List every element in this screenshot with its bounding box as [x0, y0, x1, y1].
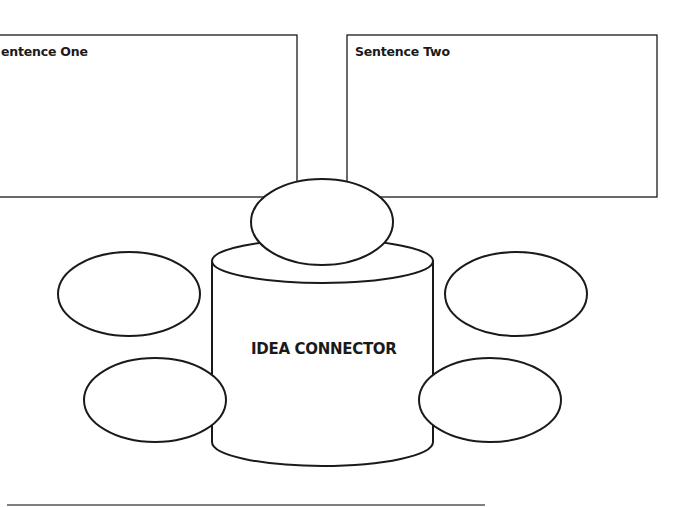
bubble-left-top[interactable] [58, 252, 200, 336]
idea-connector-label: IDEA CONNECTOR [251, 340, 397, 358]
sentence-two-box[interactable] [347, 35, 657, 197]
bubble-left-bottom[interactable] [84, 358, 226, 442]
bubble-top[interactable] [251, 179, 393, 265]
bubble-right-top[interactable] [445, 252, 587, 336]
sentence-one-label: entence One [1, 44, 88, 59]
sentence-two-label: Sentence Two [355, 44, 450, 59]
sentence-one-box[interactable] [0, 35, 297, 197]
idea-connector-diagram [0, 0, 687, 507]
bubble-right-bottom[interactable] [419, 358, 561, 442]
